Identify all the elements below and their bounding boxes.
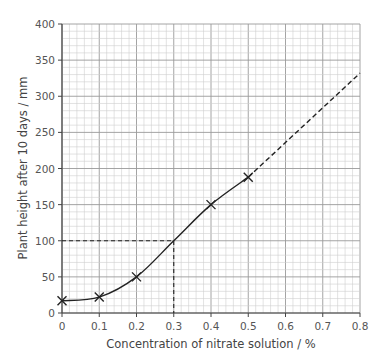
axes: [58, 24, 360, 317]
x-tick-label: 0.8: [352, 320, 369, 332]
x-tick-label: 0.2: [128, 320, 145, 332]
y-tick-label: 100: [35, 235, 55, 247]
fitted-curve: [62, 177, 248, 301]
y-axis-label: Plant height after 10 days / mm: [16, 77, 30, 260]
grid: [62, 24, 360, 313]
y-tick-label: 250: [35, 126, 55, 138]
y-tick-label: 300: [35, 90, 55, 102]
x-axis-label: Concentration of nitrate solution / %: [106, 337, 315, 351]
y-tick-label: 0: [48, 307, 55, 319]
x-tick-label: 0.5: [240, 320, 257, 332]
y-tick-label: 350: [35, 54, 55, 66]
x-tick-label: 0.7: [314, 320, 331, 332]
x-tick-label: 0.6: [277, 320, 294, 332]
y-tick-label: 50: [42, 271, 55, 283]
x-tick-label: 0.3: [165, 320, 182, 332]
x-tick-label: 0.1: [91, 320, 108, 332]
y-tick-label: 400: [35, 18, 55, 30]
line-chart: 00.10.20.30.40.50.60.70.8050100150200250…: [0, 0, 381, 364]
tick-labels: 00.10.20.30.40.50.60.70.8050100150200250…: [35, 18, 368, 332]
x-tick-label: 0.4: [203, 320, 220, 332]
y-tick-label: 200: [35, 163, 55, 175]
x-tick-label: 0: [59, 320, 66, 332]
y-tick-label: 150: [35, 199, 55, 211]
